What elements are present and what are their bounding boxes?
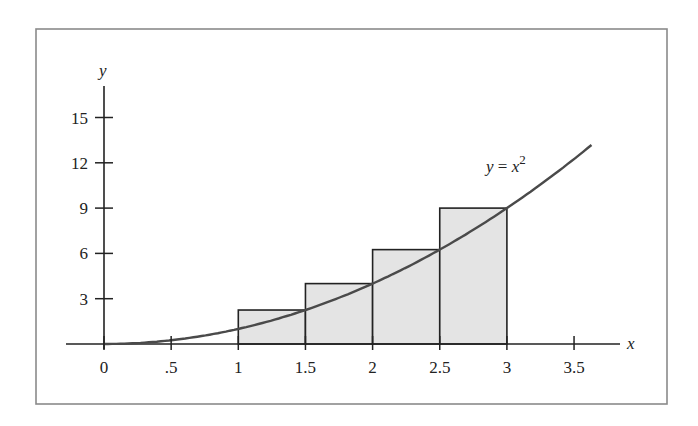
x-tick-label: 1 <box>234 358 243 377</box>
y-tick-label: 3 <box>80 290 89 309</box>
y-tick-label: 6 <box>80 244 89 263</box>
x-tick-label: .5 <box>165 358 178 377</box>
x-tick-label: 2 <box>368 358 377 377</box>
riemann-rect-2 <box>305 284 372 344</box>
y-tick-label: 12 <box>71 154 88 173</box>
y-axis-label: y <box>97 61 107 80</box>
x-tick-label: 3 <box>503 358 512 377</box>
x-tick-label: 1.5 <box>295 358 316 377</box>
y-tick-label: 15 <box>71 109 88 128</box>
chart-frame <box>36 29 667 404</box>
x-tick-label: 3.5 <box>563 358 584 377</box>
x-tick-label: 2.5 <box>429 358 450 377</box>
x-tick-label: 0 <box>100 358 109 377</box>
riemann-sum-chart: 0.511.522.533.53691215 x y y = x2 <box>0 0 698 426</box>
x-axis-label: x <box>626 334 635 353</box>
riemann-rect-3 <box>373 250 440 344</box>
y-tick-label: 9 <box>80 199 89 218</box>
